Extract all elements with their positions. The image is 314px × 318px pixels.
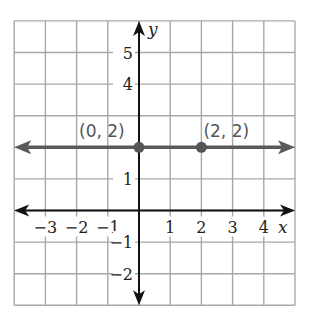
point-label: (2, 2)	[203, 121, 249, 141]
tick-labels: −3−2−11234−2−1145xy	[31, 19, 288, 284]
y-tick-label: 5	[123, 44, 133, 63]
x-axis-label: x	[278, 217, 288, 237]
coordinate-plane: (0, 2)(2, 2) −3−2−11234−2−1145xy	[0, 0, 314, 318]
y-axis-label: y	[147, 19, 158, 39]
y-tick-label: 1	[123, 170, 133, 189]
data-point	[196, 142, 207, 153]
point-label: (0, 2)	[79, 121, 125, 141]
line-y-equals-2	[14, 140, 295, 154]
x-tick-label: 1	[165, 218, 175, 237]
y-tick-label: 4	[123, 75, 133, 94]
y-tick-label: −1	[109, 233, 133, 252]
x-tick-label: 3	[228, 218, 238, 237]
y-tick-label: −2	[109, 265, 133, 284]
x-tick-label: 4	[259, 218, 269, 237]
axes	[14, 21, 295, 305]
x-tick-label: −2	[65, 218, 89, 237]
grid	[14, 21, 295, 305]
data-point	[134, 142, 145, 153]
x-tick-label: −3	[34, 218, 58, 237]
x-tick-label: 2	[196, 218, 206, 237]
